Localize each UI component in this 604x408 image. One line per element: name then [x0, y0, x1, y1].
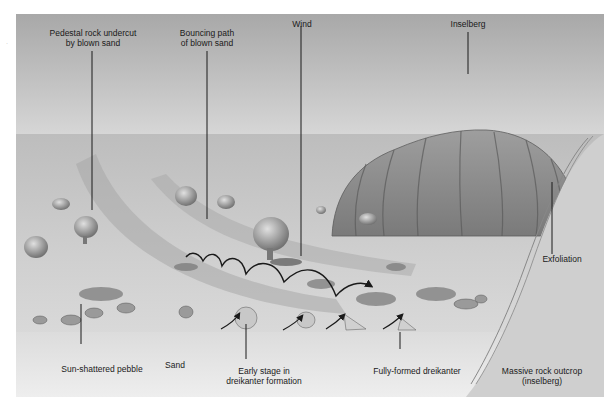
pedestal-rock-large: [253, 217, 289, 251]
label-fully-formed-dreikanter: Fully-formed dreikanter: [362, 366, 472, 376]
pedestal-rock-small: [74, 216, 98, 238]
label-inselberg: Inselberg: [438, 19, 498, 29]
label-sand: Sand: [160, 360, 190, 370]
label-early-stage: Early stage in dreikanter formation: [214, 366, 314, 386]
margin-mark: ·: [6, 40, 8, 46]
label-pedestal-rock: Pedestal rock undercut by blown sand: [28, 28, 158, 48]
label-sun-shattered-pebble: Sun-shattered pebble: [52, 364, 152, 374]
label-bouncing-path: Bouncing path of blown sand: [162, 28, 252, 48]
label-massive-rock-outcrop: Massive rock outcrop (inselberg): [490, 366, 594, 386]
desert-illustration: [16, 14, 604, 397]
label-wind: Wind: [282, 19, 322, 29]
label-exfoliation: Exfoliation: [530, 254, 594, 264]
